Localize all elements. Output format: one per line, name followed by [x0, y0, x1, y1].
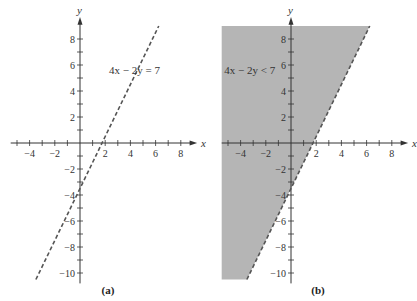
- y-tick-label: −4: [64, 190, 75, 201]
- x-axis-arrow-icon: [190, 141, 198, 146]
- y-tick-label: 4: [281, 86, 286, 97]
- y-axis-arrow-icon: [289, 17, 294, 25]
- y-tick-label: −6: [64, 216, 75, 227]
- panel-a: xy−4−224688642−2−4−6−8−104x − 2y = 7(a): [11, 4, 206, 297]
- x-tick-label: 4: [339, 148, 344, 159]
- inequality-label: 4x − 2y < 7: [224, 64, 275, 76]
- y-tick-label: −8: [275, 242, 286, 253]
- y-axis-label: y: [287, 4, 293, 16]
- y-tick-label: −6: [275, 216, 286, 227]
- x-tick-label: −2: [49, 148, 60, 159]
- figure: xy−4−224688642−2−4−6−8−104x − 2y = 7(a)x…: [0, 0, 417, 301]
- panel-caption: (b): [311, 284, 325, 297]
- x-axis-label: x: [200, 137, 206, 149]
- x-tick-label: −2: [260, 148, 271, 159]
- x-tick-label: −4: [235, 148, 246, 159]
- y-tick-label: −2: [64, 164, 75, 175]
- y-tick-label: 2: [281, 112, 286, 123]
- y-tick-label: 2: [70, 112, 75, 123]
- x-tick-label: 4: [128, 148, 133, 159]
- equation-label: 4x − 2y = 7: [109, 64, 160, 76]
- y-tick-label: 8: [281, 34, 286, 45]
- y-axis-label: y: [76, 4, 82, 16]
- y-tick-label: −8: [64, 242, 75, 253]
- y-tick-label: 6: [281, 60, 286, 71]
- x-tick-label: 2: [314, 148, 319, 159]
- y-tick-label: 4: [70, 86, 75, 97]
- x-tick-label: 6: [364, 148, 369, 159]
- y-tick-label: −2: [275, 164, 286, 175]
- y-axis-arrow-icon: [78, 17, 83, 25]
- y-tick-label: −10: [59, 268, 75, 279]
- x-tick-label: 8: [178, 148, 183, 159]
- x-tick-label: −4: [24, 148, 35, 159]
- y-tick-label: 6: [70, 60, 75, 71]
- x-axis-arrow-icon: [401, 141, 409, 146]
- y-tick-label: −10: [270, 268, 286, 279]
- y-tick-label: −4: [275, 190, 286, 201]
- x-tick-label: 6: [153, 148, 158, 159]
- x-axis-label: x: [411, 137, 417, 149]
- x-tick-label: 8: [389, 148, 394, 159]
- panel-caption: (a): [102, 284, 115, 297]
- x-tick-label: 2: [103, 148, 108, 159]
- panel-b: xy−4−224688642−2−4−6−8−104x − 2y < 7(b): [222, 4, 417, 297]
- y-tick-label: 8: [70, 34, 75, 45]
